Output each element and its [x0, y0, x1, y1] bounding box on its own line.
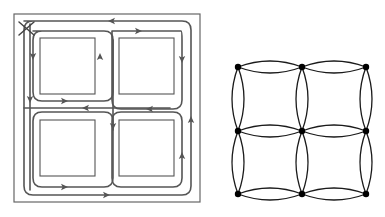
node-n00 [235, 64, 241, 70]
edge-n01-n02 [302, 61, 366, 73]
edge-n00-n10 [232, 67, 244, 131]
node-n21 [299, 191, 305, 197]
node-n11 [299, 128, 305, 134]
figure-root [0, 0, 385, 217]
node-n01 [299, 64, 305, 70]
node-group [235, 64, 369, 197]
edge-n02-n12 [360, 67, 372, 131]
node-n10 [235, 128, 241, 134]
tour-path-group [24, 21, 191, 195]
edge-n00-n01 [238, 61, 302, 73]
edge-n11-n12 [302, 125, 366, 137]
block-top-left [40, 38, 95, 94]
left-panel [14, 14, 200, 202]
right-panel [232, 61, 372, 200]
block-group [40, 38, 174, 176]
node-n12 [363, 128, 369, 134]
edge-n21-n22 [302, 188, 366, 200]
figure-canvas [0, 0, 385, 217]
tour-loop-top-right [112, 31, 182, 109]
edge-n10-n11 [238, 125, 302, 137]
edge-n20-n21 [238, 188, 302, 200]
node-n20 [235, 191, 241, 197]
block-bottom-left [40, 120, 95, 176]
block-top-right [119, 38, 174, 94]
node-n22 [363, 191, 369, 197]
edge-n12-n22 [360, 131, 372, 194]
edge-n10-n20 [232, 131, 244, 194]
arrow-centre-up-a [97, 53, 103, 60]
tour-loop-top-left [33, 31, 113, 101]
edge-n11-n21 [296, 131, 308, 194]
node-n02 [363, 64, 369, 70]
edge-n01-n11 [296, 67, 308, 131]
block-bottom-right [119, 120, 174, 176]
